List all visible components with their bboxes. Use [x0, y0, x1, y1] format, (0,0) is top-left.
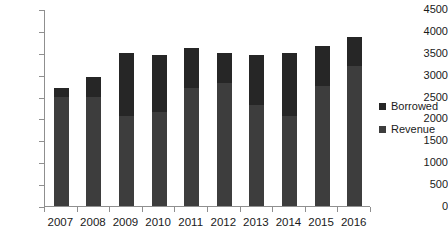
x-tick-mark [109, 207, 110, 212]
y-tick-mark [39, 163, 44, 164]
bar-segment-borrowed [315, 46, 330, 85]
x-tick-label-2010: 2010 [142, 216, 175, 229]
bar-segment-borrowed [347, 37, 362, 65]
y-tick-label: 1000 [412, 157, 448, 168]
legend-item-revenue[interactable]: Revenue [379, 123, 438, 135]
bar-2008 [86, 9, 101, 206]
x-tick-mark [207, 207, 208, 212]
bar-2007 [54, 9, 69, 206]
bar-2009 [119, 9, 134, 206]
y-tick-label: 3500 [412, 48, 448, 59]
bar-segment-revenue [119, 116, 134, 206]
bar-segment-revenue [249, 105, 264, 206]
y-tick-mark [39, 32, 44, 33]
bar-segment-revenue [152, 112, 167, 206]
y-tick-label: 4000 [412, 26, 448, 37]
x-tick-label-2013: 2013 [240, 216, 273, 229]
y-tick-mark [39, 141, 44, 142]
x-tick-label-2012: 2012 [207, 216, 240, 229]
legend-item-borrowed[interactable]: Borrowed [379, 100, 438, 112]
bar-segment-revenue [184, 88, 199, 206]
y-tick-label: 3000 [412, 70, 448, 81]
legend-label: Borrowed [391, 100, 438, 112]
x-tick-mark [44, 207, 45, 212]
bar-2011 [184, 9, 199, 206]
bar-segment-revenue [86, 97, 101, 206]
x-tick-label-2014: 2014 [272, 216, 305, 229]
bar-segment-borrowed [119, 53, 134, 116]
x-tick-mark [77, 207, 78, 212]
x-tick-mark [305, 207, 306, 212]
x-tick-label-2016: 2016 [337, 216, 370, 229]
chart-legend: BorrowedRevenue [379, 100, 438, 146]
bar-2015 [315, 9, 330, 206]
y-tick-mark [39, 185, 44, 186]
y-tick-mark [39, 98, 44, 99]
bar-segment-borrowed [282, 53, 297, 116]
y-tick-mark [39, 76, 44, 77]
legend-swatch-icon [379, 103, 386, 110]
y-tick-label: 500 [412, 179, 448, 190]
x-tick-label-2007: 2007 [44, 216, 77, 229]
y-tick-mark [39, 10, 44, 11]
x-tick-label-2008: 2008 [77, 216, 110, 229]
bar-segment-borrowed [152, 55, 167, 112]
bar-2010 [152, 9, 167, 206]
plot-area [44, 10, 370, 207]
x-tick-mark [337, 207, 338, 212]
bar-2013 [249, 9, 264, 206]
y-tick-mark [39, 119, 44, 120]
bar-segment-revenue [54, 97, 69, 206]
bar-segment-borrowed [54, 88, 69, 97]
x-tick-label-2009: 2009 [109, 216, 142, 229]
stacked-bar-chart: 050010001500200025003000350040004500 200… [0, 0, 448, 247]
legend-swatch-icon [379, 126, 386, 133]
bar-segment-revenue [315, 86, 330, 206]
bar-2012 [217, 9, 232, 206]
bar-segment-borrowed [249, 55, 264, 105]
bar-segment-borrowed [86, 77, 101, 97]
x-tick-label-2015: 2015 [305, 216, 338, 229]
bar-segment-borrowed [217, 53, 232, 84]
x-tick-label-2011: 2011 [174, 216, 207, 229]
x-tick-mark [272, 207, 273, 212]
bar-2016 [347, 9, 362, 206]
y-tick-mark [39, 54, 44, 55]
y-tick-label: 4500 [412, 4, 448, 15]
x-tick-mark [370, 207, 371, 212]
bar-segment-borrowed [184, 48, 199, 87]
y-tick-label: 0 [412, 201, 448, 212]
x-tick-mark [240, 207, 241, 212]
bar-segment-revenue [347, 66, 362, 206]
bar-segment-revenue [217, 83, 232, 206]
bar-2014 [282, 9, 297, 206]
legend-label: Revenue [391, 123, 435, 135]
x-tick-mark [142, 207, 143, 212]
x-tick-mark [174, 207, 175, 212]
bar-segment-revenue [282, 116, 297, 206]
